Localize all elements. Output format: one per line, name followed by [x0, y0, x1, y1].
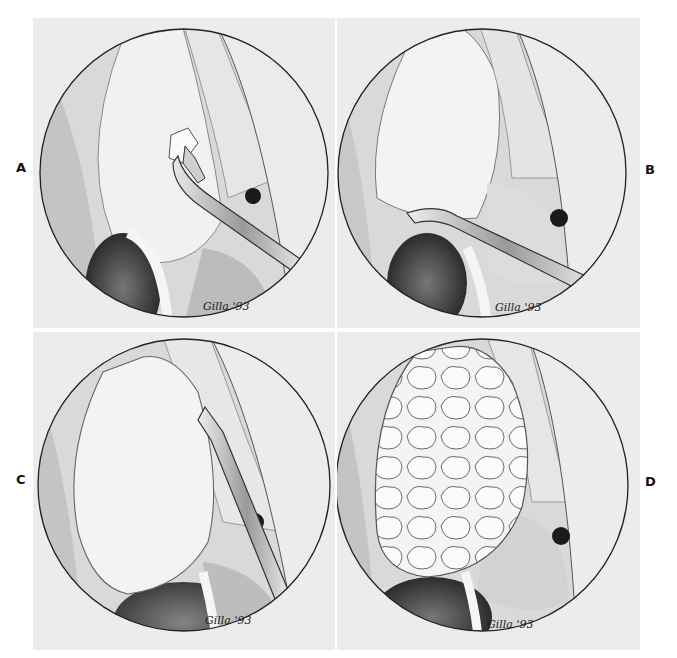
artist-signature: Gilla '93	[205, 614, 251, 627]
panel-label-c: C	[16, 472, 26, 487]
artist-signature: Gilla '93	[487, 618, 533, 631]
artist-signature: Gilla '93	[495, 301, 541, 314]
endoscopic-view-d-illustration: Gilla '93	[337, 332, 640, 650]
panel-c: Gilla '93	[33, 332, 335, 650]
panel-label-a: A	[16, 160, 26, 175]
endoscopic-view-c-illustration: Gilla '93	[33, 332, 335, 650]
panel-d: Gilla '93	[337, 332, 640, 650]
panel-b: Gilla '93	[337, 18, 640, 328]
panel-a: Gilla '93	[33, 18, 335, 328]
endoscopic-view-a-illustration: Gilla '93	[33, 18, 335, 328]
endoscopic-view-b-illustration: Gilla '93	[337, 18, 640, 328]
panel-label-b: B	[645, 162, 655, 177]
panel-label-d: D	[645, 474, 656, 489]
artist-signature: Gilla '93	[203, 300, 249, 313]
